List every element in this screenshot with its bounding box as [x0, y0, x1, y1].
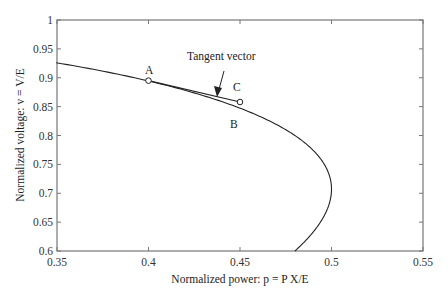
y-tick-label: 0.75	[33, 158, 53, 170]
y-tick-label: 0.85	[33, 101, 53, 113]
x-tick-label: 0.35	[47, 256, 67, 268]
x-tick-label: 0.5	[324, 256, 339, 268]
y-tick-label: 0.7	[39, 187, 54, 199]
point-a-marker	[146, 78, 152, 84]
y-axis-label: Normalized voltage: v = V/E	[14, 68, 27, 201]
y-tick-label: 0.9	[39, 72, 54, 84]
x-tick-label: 0.45	[230, 256, 250, 268]
label-a: A	[145, 64, 154, 76]
chart: 0.350.40.450.50.550.60.650.70.750.80.850…	[0, 0, 448, 295]
x-tick-label: 0.55	[413, 256, 433, 268]
x-axis-label: Normalized power: p = P X/E	[171, 273, 308, 286]
y-tick-label: 0.65	[33, 216, 53, 228]
x-tick-label: 0.4	[141, 256, 156, 268]
y-tick-label: 0.8	[39, 130, 54, 142]
arrow-head-icon	[214, 86, 222, 97]
y-tick-label: 0.95	[33, 43, 53, 55]
label-c: C	[233, 81, 241, 93]
point-c-marker	[237, 99, 243, 105]
tangent-vector-line	[149, 81, 241, 102]
tangent-label: Tangent vector	[187, 50, 256, 63]
y-tick-label: 1	[47, 14, 53, 26]
label-b: B	[230, 118, 238, 130]
y-tick-label: 0.6	[39, 245, 54, 257]
